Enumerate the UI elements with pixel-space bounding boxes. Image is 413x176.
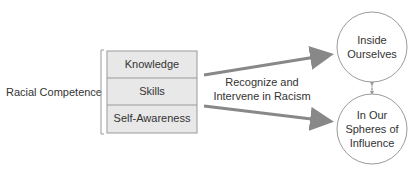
stack-item-knowledge: Knowledge [125,58,179,70]
stack-item-self-awareness: Self-Awareness [114,112,191,124]
circle-1-line-2: Ourselves [347,48,397,60]
center-label-line-2: Intervene in Racism [213,90,310,102]
stack-item-skills: Skills [139,85,165,97]
bracket [101,50,104,134]
arrow-to-spheres-of-influence [204,106,328,121]
circle-inside-ourselves: Inside Ourselves [337,12,407,82]
circle-2-line-3: Influence [350,137,395,149]
racial-competence-label: Racial Competence [6,86,102,98]
circle-spheres-of-influence: In Our Spheres of Influence [337,94,407,164]
center-label-line-1: Recognize and [225,76,298,88]
racial-competence-diagram: Racial Competence Knowledge Skills Self-… [0,0,413,176]
competence-stack: Knowledge Skills Self-Awareness [107,51,197,133]
circle-1-line-1: Inside [357,34,386,46]
circle-2-line-1: In Our [357,109,388,121]
arrow-to-inside-ourselves [204,55,328,75]
circle-2-line-2: Spheres of [345,123,399,135]
